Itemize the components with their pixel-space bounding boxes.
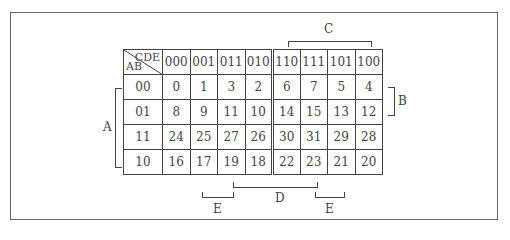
label-d: D — [275, 191, 285, 205]
bracket-c — [288, 41, 372, 47]
map-cell: 19 — [218, 150, 246, 175]
bracket-d — [233, 182, 318, 188]
map-row: 00 0 1 3 2 6 7 5 4 — [124, 75, 383, 100]
map-cell: 11 — [218, 100, 246, 125]
map-cell: 0 — [163, 75, 191, 100]
map-cell: 25 — [190, 125, 218, 150]
map-cell: 18 — [245, 150, 273, 175]
label-e-left: E — [213, 202, 222, 216]
map-cell: 10 — [245, 100, 273, 125]
bracket-e-right — [315, 192, 345, 198]
header-row: CDE AB 000 001 011 010 110 111 101 100 — [124, 50, 383, 75]
map-cell: 5 — [328, 75, 356, 100]
map-row: 01 8 9 11 10 14 15 13 12 — [124, 100, 383, 125]
col-header: 110 — [273, 50, 301, 75]
row-header: 10 — [124, 150, 163, 175]
map-cell: 29 — [328, 125, 356, 150]
karnaugh-map: CDE AB 000 001 011 010 110 111 101 100 0… — [123, 49, 383, 175]
label-a: A — [103, 120, 112, 134]
map-cell: 14 — [273, 100, 301, 125]
map-cell: 2 — [245, 75, 273, 100]
label-c: C — [324, 22, 333, 36]
map-cell: 26 — [245, 125, 273, 150]
row-header: 00 — [124, 75, 163, 100]
map-cell: 15 — [300, 100, 328, 125]
map-cell: 17 — [190, 150, 218, 175]
map-cell: 24 — [163, 125, 191, 150]
map-cell: 31 — [300, 125, 328, 150]
map-cell: 28 — [355, 125, 383, 150]
map-cell: 30 — [273, 125, 301, 150]
map-cell: 16 — [163, 150, 191, 175]
row-header: 01 — [124, 100, 163, 125]
map-row: 10 16 17 19 18 22 23 21 20 — [124, 150, 383, 175]
col-header: 001 — [190, 50, 218, 75]
map-cell: 13 — [328, 100, 356, 125]
bracket-e-left — [202, 192, 234, 198]
col-header: 100 — [355, 50, 383, 75]
map-cell: 9 — [190, 100, 218, 125]
map-cell: 4 — [355, 75, 383, 100]
label-e-right: E — [325, 202, 334, 216]
map-cell: 22 — [273, 150, 301, 175]
map-cell: 23 — [300, 150, 328, 175]
label-b: B — [398, 94, 407, 108]
map-cell: 7 — [300, 75, 328, 100]
map-cell: 1 — [190, 75, 218, 100]
map-cell: 12 — [355, 100, 383, 125]
map-cell: 6 — [273, 75, 301, 100]
bracket-b — [388, 87, 395, 116]
map-cell: 27 — [218, 125, 246, 150]
row-header: 11 — [124, 125, 163, 150]
bracket-a — [115, 88, 122, 168]
map-cell: 20 — [355, 150, 383, 175]
map-row: 11 24 25 27 26 30 31 29 28 — [124, 125, 383, 150]
map-cell: 21 — [328, 150, 356, 175]
col-header: 010 — [245, 50, 273, 75]
map-cell: 3 — [218, 75, 246, 100]
col-header: 011 — [218, 50, 246, 75]
map-cell: 8 — [163, 100, 191, 125]
col-header: 000 — [163, 50, 191, 75]
corner-cell: CDE AB — [124, 50, 163, 75]
row-var-label: AB — [126, 60, 142, 73]
col-header: 111 — [300, 50, 328, 75]
col-header: 101 — [328, 50, 356, 75]
